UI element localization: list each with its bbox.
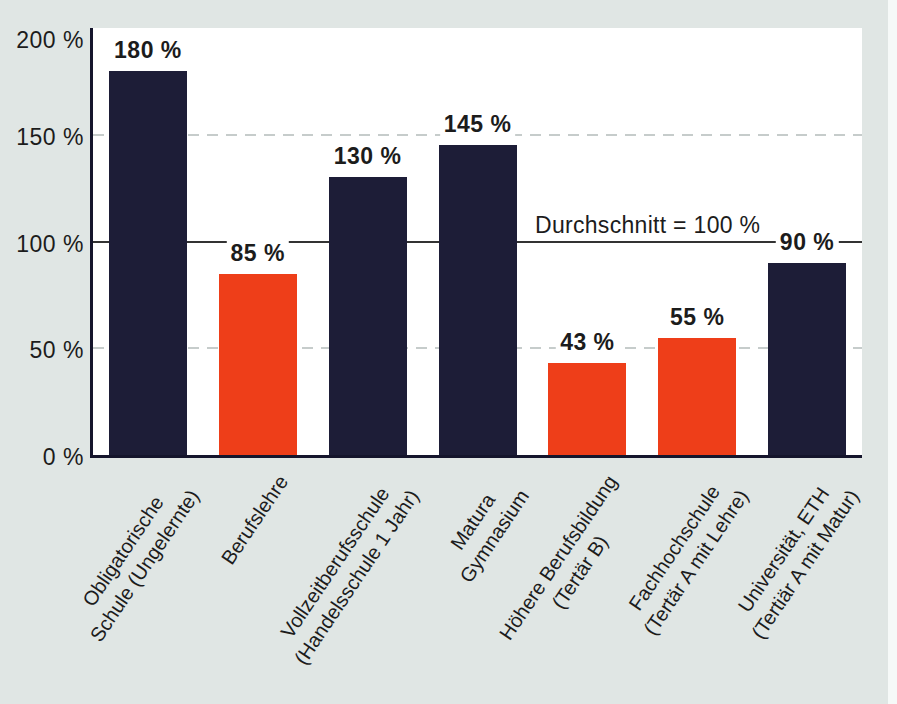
y-tick-label-0: 0 %: [0, 444, 84, 471]
value-label-1: 180 %: [110, 37, 186, 64]
y-tick-label-100: 100 %: [0, 230, 84, 257]
x-tick-label-4: MaturaGymnasium: [432, 470, 535, 588]
x-tick-label-3: Vollzeitberufsschule(Handelsschule 1 Jah…: [267, 470, 425, 670]
chart-page: Durchschnitt = 100 % 180 %85 %130 %145 %…: [0, 0, 897, 704]
bar-2: [219, 274, 297, 455]
value-label-6: 55 %: [666, 304, 728, 331]
value-label-4: 145 %: [440, 111, 516, 138]
bar-3: [329, 177, 407, 455]
bars-layer: 180 %85 %130 %145 %43 %55 %90 %: [93, 28, 862, 455]
bar-slot-7: 90 %: [752, 28, 862, 455]
page-edge-strip: [888, 0, 897, 704]
bar-6: [658, 338, 736, 455]
value-label-7: 90 %: [776, 229, 838, 256]
x-tick-label-2: Berufslehre: [215, 470, 294, 569]
bar-7: [768, 263, 846, 455]
plot-area: Durchschnitt = 100 % 180 %85 %130 %145 %…: [93, 28, 862, 455]
bar-1: [109, 71, 187, 455]
bar-slot-6: 55 %: [642, 28, 752, 455]
value-label-3: 130 %: [330, 143, 406, 170]
bar-5: [548, 363, 626, 455]
bar-slot-5: 43 %: [532, 28, 642, 455]
y-tick-label-50: 50 %: [0, 337, 84, 364]
bar-slot-3: 130 %: [313, 28, 423, 455]
bar-slot-4: 145 %: [423, 28, 533, 455]
value-label-5: 43 %: [556, 329, 618, 356]
average-annotation: Durchschnitt = 100 %: [535, 212, 760, 239]
bar-4: [439, 145, 517, 455]
x-tick-label-line: Berufslehre: [215, 470, 294, 569]
bar-slot-2: 85 %: [203, 28, 313, 455]
y-tick-label-200: 200 %: [0, 27, 84, 54]
y-tick-label-150: 150 %: [0, 123, 84, 150]
x-axis-category-labels: ObligatorischeSchule (Ungelernte)Berufsl…: [93, 458, 862, 704]
bar-slot-1: 180 %: [93, 28, 203, 455]
value-label-2: 85 %: [227, 240, 289, 267]
